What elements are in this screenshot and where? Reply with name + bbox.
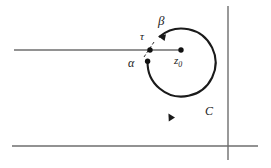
alpha-endpoint-dot bbox=[145, 59, 150, 64]
tau-label: τ bbox=[140, 31, 144, 42]
contour-c-label: C bbox=[205, 105, 213, 117]
z0-label-subscript: 0 bbox=[178, 60, 182, 69]
z0-point-dot bbox=[178, 47, 183, 52]
tau-point-dot bbox=[147, 47, 152, 52]
alpha-label: α bbox=[128, 57, 134, 69]
contour-diagram-canvas bbox=[0, 0, 271, 168]
contour-diagram-figure: β τ α z0 C bbox=[0, 0, 271, 168]
contour-direction-arrowhead bbox=[168, 114, 175, 122]
beta-label: β bbox=[158, 14, 164, 27]
z0-label: z0 bbox=[174, 55, 182, 68]
